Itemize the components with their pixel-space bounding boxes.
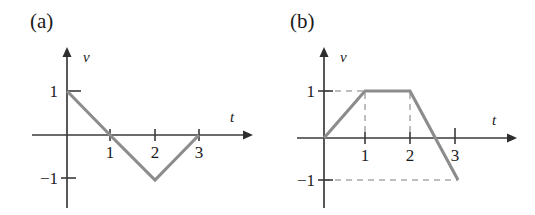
plot-svg-b: v t 1 2 3 1 −1 (267, 0, 535, 215)
x-axis-arrowhead-a (243, 131, 253, 140)
y-axis-label-a: v (83, 49, 90, 65)
y-axis-arrowhead-a (63, 47, 72, 57)
x-tick-label-2-b: 2 (406, 146, 415, 165)
plot-svg-a: v t 1 2 3 1 −1 (0, 0, 267, 215)
x-tick-label-2-a: 2 (151, 143, 160, 162)
data-curve-b (324, 91, 458, 180)
x-axis-label-a: t (230, 109, 235, 125)
chart-panel-b: (b) v t 1 (267, 0, 535, 215)
y-axis-arrowhead-b (320, 47, 329, 57)
y-tick-label-pos1-b: 1 (307, 82, 316, 101)
chart-panel-a: (a) v t 1 2 3 1 −1 (0, 0, 267, 215)
y-axis-label-b: v (340, 49, 347, 65)
x-tick-label-1-a: 1 (106, 143, 115, 162)
y-tick-label-pos1-a: 1 (50, 82, 59, 101)
x-tick-label-3-b: 3 (451, 146, 460, 165)
y-tick-label-neg1-a: −1 (40, 169, 58, 188)
x-tick-label-3-a: 3 (195, 143, 204, 162)
x-axis-arrowhead-b (507, 134, 517, 143)
figure-root: (a) v t 1 2 3 1 −1 (0, 0, 535, 215)
x-axis-label-b: t (492, 112, 497, 128)
x-tick-label-1-b: 1 (361, 146, 370, 165)
y-tick-label-neg1-b: −1 (297, 171, 315, 190)
